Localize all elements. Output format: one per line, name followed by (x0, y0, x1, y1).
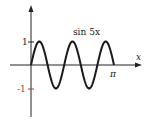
x-tick-label-pi: π (109, 69, 117, 79)
sine-plot: 1 -1 sin 5x x π (0, 0, 147, 126)
y-tick-label-neg1: -1 (17, 84, 26, 94)
y-axis-arrow-icon (29, 5, 34, 12)
x-axis-label: x (136, 52, 141, 62)
curve-label: sin 5x (73, 27, 100, 37)
y-tick-label-1: 1 (22, 37, 28, 47)
x-axis-arrow-icon (135, 63, 142, 68)
